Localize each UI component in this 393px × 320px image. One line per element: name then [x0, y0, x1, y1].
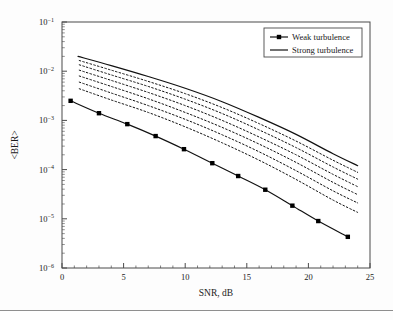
x-tick-label-5: 5 [121, 272, 125, 282]
x-tick-label-15: 15 [243, 272, 252, 282]
series-marker-0 [290, 203, 294, 207]
x-tick-label-10: 10 [181, 272, 190, 282]
series-marker-0 [236, 174, 240, 178]
figure-root: 051015202510−110−210−310−410−510−6SNR, d… [0, 0, 393, 320]
series-marker-0 [346, 235, 350, 239]
legend-label-0: Weak turbulence [292, 32, 350, 42]
series-marker-0 [182, 147, 186, 151]
legend-marker-0 [277, 35, 281, 39]
page-divider-rule [0, 310, 393, 311]
chart-figure: 051015202510−110−210−310−410−510−6SNR, d… [0, 0, 393, 320]
plot-area [62, 22, 370, 268]
x-tick-label-0: 0 [60, 272, 64, 282]
series-marker-0 [125, 122, 129, 126]
series-marker-0 [97, 111, 101, 115]
x-tick-label-20: 20 [304, 272, 313, 282]
series-marker-0 [153, 134, 157, 138]
x-tick-label-25: 25 [366, 272, 375, 282]
legend-label-1: Strong turbulence [292, 45, 354, 55]
series-marker-0 [210, 161, 214, 165]
series-marker-0 [316, 219, 320, 223]
series-marker-0 [68, 99, 72, 103]
ber-vs-snr-chart: 051015202510−110−210−310−410−510−6SNR, d… [0, 0, 393, 320]
y-axis-title: <BER> [10, 130, 20, 159]
series-marker-0 [263, 188, 267, 192]
x-axis-title: SNR, dB [199, 288, 233, 298]
